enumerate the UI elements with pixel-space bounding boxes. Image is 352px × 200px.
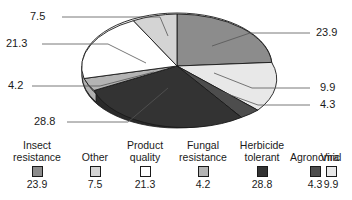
legend-swatch-herbicide-tolerant [257,166,268,177]
legend-item-insect-resistance[interactable]: Insect resistance 23.9 [4,140,70,190]
legend-swatch-insect-resistance [32,166,43,177]
legend-swatch-product-quality [140,166,151,177]
legend-value-viral: 9.9 [312,179,350,190]
chart-legend: Insect resistance 23.9 Other 7.5 Product… [0,136,352,200]
legend-swatch-viral [326,166,337,177]
legend-value-herbicide-tolerant: 28.8 [234,179,290,190]
callout-4-2: 4.2 [8,80,23,91]
legend-label-line2: resistance [172,152,234,164]
legend-item-viral[interactable]: Viral 9.9 [312,140,350,190]
legend-item-fungal-resistance[interactable]: Fungal resistance 4.2 [172,140,234,190]
legend-value-fungal-resistance: 4.2 [172,179,234,190]
legend-label-line1: Viral [312,152,350,164]
callout-21-3: 21.3 [6,38,27,49]
legend-label-line2: quality [120,152,170,164]
legend-label-line1: Product [120,140,170,152]
legend-label-line1: Herbicide [234,140,290,152]
callout-28-8: 28.8 [34,116,55,127]
callout-23-9: 23.9 [316,27,337,38]
legend-swatch-fungal-resistance [198,166,209,177]
legend-label-line2: resistance [4,152,70,164]
legend-label-line1: Other [74,152,116,164]
legend-label-line2: tolerant [234,152,290,164]
legend-value-insect-resistance: 23.9 [4,179,70,190]
legend-swatch-other [90,166,101,177]
callout-9-9: 9.9 [320,82,335,93]
legend-item-herbicide-tolerant[interactable]: Herbicide tolerant 28.8 [234,140,290,190]
callout-4-3: 4.3 [320,99,335,110]
callout-7-5: 7.5 [30,11,45,22]
pie-chart-area: 7.5 21.3 4.2 28.8 23.9 9.9 4.3 [0,0,352,136]
legend-item-product-quality[interactable]: Product quality 21.3 [120,140,170,190]
legend-label-line1: Fungal [172,140,234,152]
legend-item-other[interactable]: Other 7.5 [74,140,116,190]
legend-label-line1: Insect [4,140,70,152]
legend-value-other: 7.5 [74,179,116,190]
pie-slice-insect-resistance [177,14,272,66]
legend-value-product-quality: 21.3 [120,179,170,190]
